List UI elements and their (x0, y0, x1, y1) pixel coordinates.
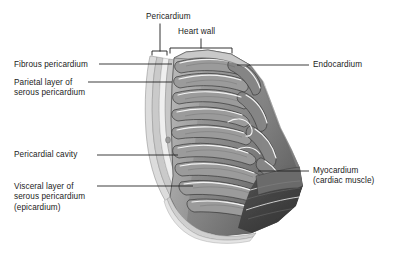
label-myocardium-line1: Myocardium (313, 166, 374, 176)
label-myocardium-line2: (cardiac muscle) (313, 176, 374, 186)
label-visceral-layer-line2: serous pericardium (14, 192, 85, 202)
heart-wall-illustration (0, 0, 409, 253)
bracket-pericardium (152, 24, 167, 55)
label-visceral-layer-line1: Visceral layer of (14, 182, 85, 192)
label-endocardium: Endocardium (313, 60, 362, 70)
label-parietal-layer: Parietal layer of serous pericardium (14, 78, 85, 99)
label-visceral-layer-line3: (epicardium) (14, 203, 85, 213)
bracket-label-pericardium: Pericardium (146, 12, 191, 22)
label-myocardium: Myocardium (cardiac muscle) (313, 166, 374, 187)
label-visceral-layer: Visceral layer of serous pericardium (ep… (14, 182, 85, 213)
figure-canvas: Pericardium Heart wall Fibrous pericardi… (0, 0, 409, 253)
label-fibrous-pericardium: Fibrous pericardium (14, 60, 88, 70)
bracket-label-heart-wall: Heart wall (178, 27, 215, 37)
myocardium-body (164, 48, 308, 243)
label-parietal-layer-line1: Parietal layer of (14, 78, 85, 88)
label-parietal-layer-line2: serous pericardium (14, 88, 85, 98)
label-pericardial-cavity: Pericardial cavity (14, 150, 77, 160)
